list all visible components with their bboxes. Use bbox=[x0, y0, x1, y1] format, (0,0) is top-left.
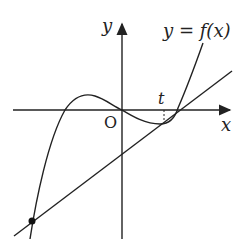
y-axis-label: y bbox=[102, 17, 112, 35]
tangent-point-label: t bbox=[158, 91, 164, 107]
function-curve bbox=[30, 43, 203, 239]
origin-label: O bbox=[104, 115, 117, 131]
tangent-line bbox=[14, 71, 232, 236]
graph-diagram: y y = f(x) t O x bbox=[0, 0, 242, 239]
intersection-point bbox=[29, 218, 36, 225]
x-axis-label: x bbox=[221, 116, 231, 134]
curve-label: y = f(x) bbox=[163, 22, 231, 40]
